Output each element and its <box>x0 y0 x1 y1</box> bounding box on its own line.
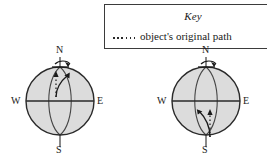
compass-label-north: N <box>56 45 63 55</box>
key-legend-box: Key object's original path <box>104 4 267 49</box>
compass-label-north: N <box>202 45 209 55</box>
dotted-line-sample-icon <box>113 37 135 39</box>
compass-label-west: W <box>157 96 166 106</box>
key-entry-row: object's original path <box>113 30 232 42</box>
key-title: Key <box>105 10 267 22</box>
globe-right-drawing <box>158 53 254 153</box>
northern-hemisphere-deflection-globe: N S E W <box>12 53 108 153</box>
southern-hemisphere-deflection-globe: N S E W <box>158 53 254 153</box>
compass-label-south: S <box>202 145 208 155</box>
compass-label-west: W <box>11 96 20 106</box>
coriolis-deflection-figure: Key object's original path <box>0 0 267 155</box>
compass-label-east: E <box>97 96 103 106</box>
globe-left-drawing <box>12 53 108 153</box>
compass-label-south: S <box>56 145 62 155</box>
compass-label-east: E <box>243 96 249 106</box>
key-entry-label: object's original path <box>140 30 232 42</box>
